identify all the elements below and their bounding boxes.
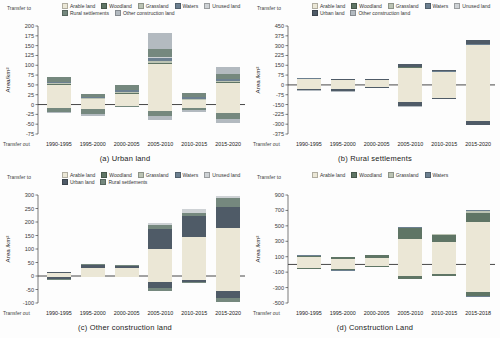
y-axis-title: Area /km²: [254, 236, 261, 263]
bar-segment-rural: [216, 198, 240, 207]
transfer-out-label: Transfer out: [253, 310, 280, 316]
legend-swatch-arable: [312, 172, 318, 178]
y-tick-label: 25: [28, 92, 34, 98]
chart-d-construction-land: Transfer to Arable landWoodlandGrassland…: [250, 169, 500, 338]
chart-d-header: Transfer to Arable landWoodlandGrassland…: [250, 169, 500, 191]
y-tick-label: -50: [26, 287, 34, 293]
bar-segment-waters: [148, 58, 172, 61]
transfer-out-label: Transfer out: [3, 141, 30, 147]
legend-swatch-urban: [312, 10, 318, 16]
y-tick-label: 375: [275, 33, 284, 39]
legend-row: Arable landWoodlandGrasslandWatersUnused…: [312, 3, 498, 9]
legend-swatch-waters: [425, 3, 431, 9]
bar-segment-rural: [148, 49, 172, 58]
legend-label: Waters: [183, 172, 199, 178]
y-tick-label: -100: [23, 300, 34, 306]
bar-segment-urban: [47, 272, 71, 273]
legend-swatch-other: [115, 10, 121, 16]
legend-label: Grassland: [146, 172, 169, 178]
bar-segment-urban: [331, 79, 355, 80]
bar-segment-arable: [115, 94, 139, 105]
y-tick-label: -150: [273, 102, 284, 108]
y-tick-label: 0: [281, 82, 284, 88]
legend-item-arable: Arable land: [312, 172, 345, 178]
x-category-label: 1990-1995: [296, 310, 322, 316]
bar-segment-other: [297, 90, 321, 91]
legend-swatch-waters: [425, 172, 431, 178]
y-tick-label: 300: [275, 238, 284, 244]
bar-segment-urban: [398, 102, 422, 106]
bar-segment-arable: [331, 259, 355, 264]
y-tick-label: -25: [26, 111, 34, 117]
legend-item-woodland: Woodland: [351, 172, 381, 178]
bar-segment-arable: [148, 105, 172, 111]
bar-segment-urban: [115, 277, 139, 278]
chart-d-legend: Arable landWoodlandGrasslandWaters: [312, 172, 498, 179]
bar-segment-woodland: [432, 274, 456, 276]
y-tick-label: 175: [25, 33, 34, 39]
y-axis-title: Area/km²: [4, 67, 11, 92]
bar-segment-woodland: [365, 255, 389, 257]
chart-a-plot: 2001751501251007550250-25-50-75Area/km²1…: [0, 22, 250, 153]
chart-a-header: Transfer to Arable landWoodlandGrassland…: [0, 0, 250, 22]
bar-segment-urban: [182, 216, 206, 237]
bar-segment-woodland: [398, 276, 422, 278]
bar-segment-arable: [365, 85, 389, 87]
bar-segment-arable: [216, 83, 240, 105]
x-category-label: 2010-2015: [181, 310, 207, 316]
y-tick-label: 300: [25, 192, 34, 198]
legend-label: Arable land: [70, 172, 95, 178]
x-category-label: 2015-2020: [465, 141, 491, 147]
bar-segment-woodland: [331, 257, 355, 259]
legend-item-rural: Rural settlements: [100, 179, 147, 185]
bar-segment-urban: [81, 277, 105, 278]
legend-item-grassland: Grassland: [138, 3, 169, 9]
x-category-label: 1990-1995: [46, 310, 72, 316]
legend-label: Grassland: [146, 3, 169, 9]
bar-segment-rural: [115, 85, 139, 90]
bar-segment-arable: [297, 264, 321, 267]
chart-b-plot: 450375300225150750-75-150-225-300-375Are…: [250, 22, 500, 153]
legend-swatch-rural: [100, 179, 106, 185]
bar-segment-arable: [365, 258, 389, 265]
bar-segment-arable: [47, 276, 71, 277]
legend-swatch-rural: [62, 10, 68, 16]
bar-segment-arable: [297, 79, 321, 85]
legend-label: Arable land: [320, 172, 345, 178]
legend-item-unused: Unused land: [454, 3, 490, 9]
bar-segment-rural: [182, 213, 206, 215]
bar-segment-rural: [216, 298, 240, 302]
legend-swatch-woodland: [351, 3, 357, 9]
legend-item-grassland: Grassland: [388, 172, 419, 178]
bar-segment-arable: [182, 105, 206, 108]
y-tick-label: -100: [273, 269, 284, 275]
legend-item-waters: Waters: [425, 172, 449, 178]
bar-segment-arable: [216, 105, 240, 114]
chart-a-urban-land: Transfer to Arable landWoodlandGrassland…: [0, 0, 250, 169]
y-tick-label: -225: [273, 111, 284, 117]
y-tick-label: 100: [25, 62, 34, 68]
legend-item-other: Other construction land: [115, 10, 175, 16]
legend-item-unused: Unused land: [204, 172, 240, 178]
y-tick-label: 50: [28, 260, 34, 266]
bar-segment-arable: [182, 100, 206, 105]
legend-item-unused: Unused land: [204, 3, 240, 9]
bar-segment-arable: [466, 222, 490, 265]
bar-segment-unused: [148, 57, 172, 58]
legend-swatch-other: [350, 10, 356, 16]
legend-label: Waters: [183, 3, 199, 9]
legend-label: Woodland: [109, 3, 131, 9]
bar-segment-arable: [432, 71, 456, 84]
bar-segment-arable: [81, 268, 105, 276]
bar-segment-arable: [432, 85, 456, 98]
x-category-label: 2005-2010: [398, 141, 424, 147]
legend-swatch-grassland: [138, 3, 144, 9]
bar-segment-grassland: [398, 228, 422, 229]
bar-segment-other: [81, 114, 105, 116]
bar-segment-other: [398, 106, 422, 107]
bar-segment-urban: [297, 89, 321, 90]
y-tick-label: -300: [273, 285, 284, 291]
chart-a-legend: Arable landWoodlandGrasslandWatersUnused…: [62, 3, 248, 17]
bar-segment-urban: [148, 229, 172, 250]
y-tick-label: 200: [25, 23, 34, 29]
